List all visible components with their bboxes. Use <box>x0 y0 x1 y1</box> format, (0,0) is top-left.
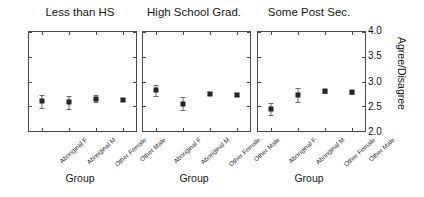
y-axis-tick-label: 2.0 <box>368 127 382 137</box>
y-axis-tick <box>142 57 146 58</box>
plot-area <box>142 31 251 132</box>
y-axis-tick <box>142 82 146 83</box>
error-bar-cap <box>93 102 98 103</box>
x-axis-tick <box>210 31 211 35</box>
x-axis-tick <box>183 128 184 132</box>
y-axis-tick <box>362 82 366 83</box>
y-axis-tick <box>28 57 32 58</box>
panel-some-post-sec: Some Post Sec. Group Aboriginal FAborigi… <box>249 0 369 197</box>
error-bar-cap <box>67 96 72 97</box>
y-axis-tick <box>142 131 146 132</box>
data-point <box>93 96 98 101</box>
error-bar-cap <box>181 110 186 111</box>
x-axis-tick <box>210 128 211 132</box>
y-axis-tick-label: 2.5 <box>368 102 382 112</box>
y-axis-tick <box>362 32 366 33</box>
x-axis-tick <box>96 31 97 35</box>
y-axis-tick <box>362 106 366 107</box>
x-axis-tick <box>69 31 70 35</box>
x-axis-tick <box>42 31 43 35</box>
x-axis-tick <box>271 128 272 132</box>
y-axis-tick <box>28 106 32 107</box>
x-axis-tick <box>352 31 353 35</box>
x-axis-tick <box>183 31 184 35</box>
y-axis-tick <box>257 82 261 83</box>
y-axis-tick <box>257 131 261 132</box>
x-axis-tick <box>237 31 238 35</box>
y-axis-tick-label: 4.0 <box>368 26 382 36</box>
x-axis-tick <box>69 128 70 132</box>
x-axis-tick <box>123 128 124 132</box>
data-point <box>234 92 239 97</box>
data-point <box>207 91 212 96</box>
panel-high-school-grad: High School Grad. Group Aboriginal FAbor… <box>134 0 254 197</box>
y-axis-title-text: Agree/Disagree <box>396 37 408 110</box>
y-axis-tick <box>362 131 366 132</box>
error-bar-cap <box>296 102 301 103</box>
data-point <box>67 100 72 105</box>
data-point <box>120 97 125 102</box>
error-bar-cap <box>40 108 45 109</box>
plot-area <box>28 31 137 132</box>
error-bar-cap <box>269 103 274 104</box>
panel-less-than-hs: Less than HS Group Aboriginal FAborigina… <box>20 0 140 197</box>
y-axis-tick <box>142 106 146 107</box>
x-axis-tick <box>123 31 124 35</box>
y-axis-tick <box>28 131 32 132</box>
panel-title: Less than HS <box>20 6 140 19</box>
x-axis-category-label: Aboriginal F <box>287 136 318 165</box>
x-axis-tick <box>42 128 43 132</box>
y-axis-tick <box>257 106 261 107</box>
x-axis-tick <box>271 31 272 35</box>
x-axis-tick <box>298 128 299 132</box>
y-axis-tick <box>142 32 146 33</box>
data-point <box>269 106 274 111</box>
x-axis-title: Group <box>134 172 254 184</box>
x-axis-tick <box>325 31 326 35</box>
y-axis-tick-label: 3.0 <box>368 77 382 87</box>
x-axis-category-label: Aboriginal F <box>58 136 89 165</box>
panel-title: High School Grad. <box>134 6 254 19</box>
error-bar-cap <box>67 109 72 110</box>
x-axis-category-label: Aboriginal F <box>172 136 203 165</box>
y-axis-tick <box>362 57 366 58</box>
y-axis-title: Agree/Disagree <box>396 31 410 132</box>
data-point <box>296 93 301 98</box>
x-axis-tick <box>237 128 238 132</box>
error-bar-cap <box>154 96 159 97</box>
data-point <box>349 90 354 95</box>
error-bar-cap <box>296 88 301 89</box>
y-axis-tick <box>257 57 261 58</box>
x-axis-tick <box>325 128 326 132</box>
figure-panel-chart: Less than HS Group Aboriginal FAborigina… <box>0 0 424 197</box>
x-axis-tick <box>352 128 353 132</box>
y-axis-tick <box>28 82 32 83</box>
panel-title: Some Post Sec. <box>249 6 369 19</box>
x-axis-tick <box>156 31 157 35</box>
y-axis-tick-label: 3.5 <box>368 51 382 61</box>
error-bar-cap <box>269 115 274 116</box>
data-point <box>40 99 45 104</box>
error-bar-cap <box>154 85 159 86</box>
x-axis-title: Group <box>249 172 369 184</box>
error-bar-cap <box>181 97 186 98</box>
data-point <box>181 101 186 106</box>
y-axis-tick <box>28 32 32 33</box>
plot-area <box>257 31 366 132</box>
x-axis-tick <box>156 128 157 132</box>
x-axis-tick <box>298 31 299 35</box>
data-point <box>154 88 159 93</box>
x-axis-tick <box>96 128 97 132</box>
y-axis-tick <box>257 32 261 33</box>
x-axis-title: Group <box>20 172 140 184</box>
error-bar-cap <box>40 95 45 96</box>
data-point <box>322 89 327 94</box>
